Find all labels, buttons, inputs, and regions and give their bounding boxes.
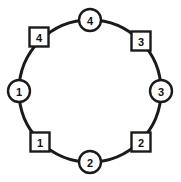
node-circle-3-label: 3 — [158, 86, 164, 98]
node-circle-3[interactable]: 3 — [150, 80, 172, 102]
node-square-3[interactable]: 3 — [132, 32, 151, 51]
node-square-1-label: 1 — [37, 137, 43, 149]
node-circle-4-label: 4 — [87, 15, 94, 27]
node-circle-4[interactable]: 4 — [79, 9, 101, 31]
node-square-1[interactable]: 1 — [31, 133, 50, 152]
ring-diagram-canvas: 4 3 3 2 2 1 1 — [0, 0, 181, 182]
ring-diagram: 4 3 3 2 2 1 1 — [0, 0, 181, 182]
node-circle-2-label: 2 — [87, 157, 93, 169]
node-circle-1-label: 1 — [16, 86, 22, 98]
node-circle-1[interactable]: 1 — [8, 80, 30, 102]
node-square-4-label: 4 — [36, 32, 43, 44]
node-square-2[interactable]: 2 — [132, 133, 151, 152]
node-circle-2[interactable]: 2 — [79, 151, 101, 173]
node-square-3-label: 3 — [138, 36, 144, 48]
node-square-4[interactable]: 4 — [30, 28, 49, 47]
node-square-2-label: 2 — [138, 137, 144, 149]
